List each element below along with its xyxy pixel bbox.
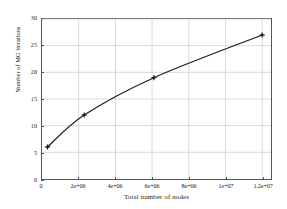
- y-axis-tick-label: 20: [7, 69, 37, 75]
- x-tick-mark: [41, 177, 42, 180]
- y-tick-mark: [41, 18, 44, 19]
- x-tick-mark: [115, 177, 116, 180]
- y-axis-tick-label: 5: [7, 150, 37, 156]
- y-tick-mark: [41, 72, 44, 73]
- x-axis-label: Total number of nodes: [41, 193, 272, 201]
- y-axis-tick-label: 15: [7, 96, 37, 102]
- y-tick-mark: [41, 180, 44, 181]
- y-axis-tick-label: 30: [7, 15, 37, 21]
- data-point-marker: [151, 75, 156, 80]
- plot-area: [41, 18, 272, 180]
- x-tick-mark: [263, 177, 264, 180]
- chart-figure: 051015202530 02e+064e+066e+068e+061e+071…: [0, 0, 287, 209]
- y-axis-tick-label: 10: [7, 123, 37, 129]
- series-line: [48, 35, 263, 147]
- y-tick-mark: [41, 45, 44, 46]
- x-tick-mark: [78, 177, 79, 180]
- y-tick-mark: [41, 126, 44, 127]
- data-series-multigrid-iterations: [42, 19, 271, 179]
- data-point-marker: [260, 32, 265, 37]
- x-tick-mark: [152, 177, 153, 180]
- x-tick-mark: [226, 177, 227, 180]
- y-tick-mark: [41, 153, 44, 154]
- y-axis-tick-label: 25: [7, 42, 37, 48]
- y-axis-label: Number of MG iterations: [14, 0, 21, 120]
- x-axis-tick-label: 1.2e+07: [241, 182, 285, 189]
- y-tick-mark: [41, 99, 44, 100]
- x-tick-mark: [189, 177, 190, 180]
